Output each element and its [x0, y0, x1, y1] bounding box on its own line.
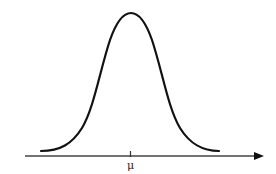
- bell-curve: [41, 13, 219, 151]
- normal-curve-diagram: μ: [0, 0, 276, 174]
- axis-arrow-icon: [254, 152, 264, 160]
- mean-label: μ: [127, 159, 134, 172]
